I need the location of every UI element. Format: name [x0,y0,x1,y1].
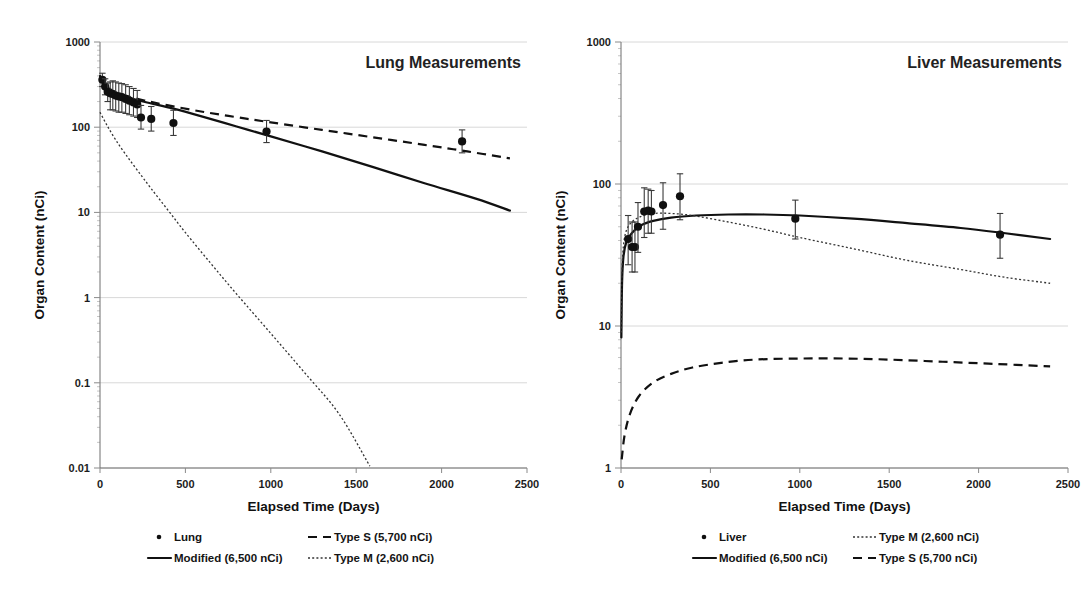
scatter-marker [169,119,177,127]
legend-label: Type M (2,600 nCi) [334,552,434,564]
x-tick-labels: 05001000150020002500 [618,468,1080,490]
series-line-dotted [100,112,370,466]
scatter-marker [676,192,684,200]
data-point [169,110,177,135]
data-point [659,183,667,229]
y-tick-labels: 1101001000 [587,36,621,474]
scatter-marker [634,223,642,231]
x-tick-labels: 05001000150020002500 [97,468,539,490]
legend-label: Modified (6,500 nCi) [174,552,283,564]
data-point [458,130,466,153]
y-tick-label: 1 [605,462,611,474]
legend-item: Modified (6,500 nCi) [693,552,828,564]
scatter-marker [137,113,145,121]
series-line-solid [621,214,1050,337]
scatter-marker [996,231,1004,239]
data-point [996,213,1004,258]
x-tick-label: 500 [176,478,194,490]
data-point [676,174,684,220]
legend-label: Modified (6,500 nCi) [719,552,828,564]
scatter-marker [647,207,655,215]
x-tick-label: 500 [701,478,719,490]
scatter-marker [133,100,141,108]
y-tick-label: 100 [593,178,611,190]
y-tick-label: 10 [78,206,90,218]
legend-label: Type S (5,700 nCi) [879,552,977,564]
y-tick-label: 1000 [66,36,90,48]
data-point [133,90,141,117]
legend-item: Type M (2,600 nCi) [853,531,979,543]
data-point [791,200,799,239]
x-axis-title: Elapsed Time (Days) [779,499,911,514]
legend-label: Type M (2,600 nCi) [879,531,979,543]
legend-label: Liver [719,531,747,543]
scatter-marker [147,115,155,123]
scatter-group [624,174,1004,272]
legend-dot-icon [157,535,162,540]
x-tick-label: 2000 [429,478,453,490]
x-tick-label: 1000 [788,478,812,490]
scatter-marker [458,137,466,145]
legend-item: Type S (5,700 nCi) [308,531,432,543]
axes [621,42,1068,468]
y-axis-title: Organ Content (nCi) [553,191,568,320]
y-tick-labels: 0.010.11101001000 [66,36,100,474]
legend-item: Modified (6,500 nCi) [148,552,283,564]
panel-title: Lung Measurements [365,54,521,71]
y-tick-label: 10 [599,320,611,332]
figure-container: 0.010.1110100100005001000150020002500Ela… [0,0,1090,605]
series-line-solid [100,76,510,211]
legend-item: Lung [157,531,202,543]
scatter-group [98,73,466,153]
scatter-marker [624,235,632,243]
x-tick-label: 2500 [515,478,539,490]
x-tick-label: 0 [97,478,103,490]
legend-item: Type M (2,600 nCi) [308,552,434,564]
data-point [624,216,632,265]
legend: LungType S (5,700 nCi)Modified (6,500 nC… [148,531,434,564]
scatter-marker [791,215,799,223]
grid-lines [621,42,1068,468]
panel-liver: 110100100005001000150020002500Elapsed Ti… [545,0,1090,605]
x-tick-label: 1500 [877,478,901,490]
legend-item: Type S (5,700 nCi) [853,552,977,564]
x-tick-label: 2500 [1056,478,1080,490]
scatter-marker [659,201,667,209]
series-group [100,76,510,466]
x-tick-label: 2000 [966,478,990,490]
x-tick-label: 1000 [259,478,283,490]
series-line-dashed [622,358,1050,459]
liver-chart-svg: 110100100005001000150020002500Elapsed Ti… [545,0,1090,605]
legend-label: Lung [174,531,202,543]
legend-dot-icon [702,535,707,540]
y-axis-title: Organ Content (nCi) [32,191,47,320]
legend: LiverType M (2,600 nCi)Modified (6,500 n… [693,531,979,564]
scatter-marker [262,127,270,135]
panel-lung: 0.010.1110100100005001000150020002500Ela… [0,0,545,605]
data-point [137,105,145,129]
legend-label: Type S (5,700 nCi) [334,531,432,543]
panel-title: Liver Measurements [907,54,1062,71]
legend-item: Liver [702,531,747,543]
y-tick-label: 100 [72,121,90,133]
y-tick-label: 0.01 [69,462,90,474]
x-axis-title: Elapsed Time (Days) [248,499,380,514]
y-tick-label: 1000 [587,36,611,48]
y-tick-label: 0.1 [75,377,90,389]
data-point [262,120,270,142]
y-tick-label: 1 [84,292,90,304]
x-tick-label: 0 [618,478,624,490]
lung-chart-svg: 0.010.1110100100005001000150020002500Ela… [0,0,545,605]
series-group [621,213,1050,459]
x-tick-label: 1500 [344,478,368,490]
